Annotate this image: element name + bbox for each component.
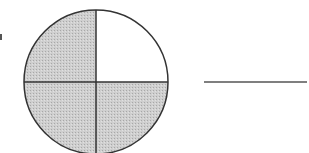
fraction-diagram — [0, 0, 309, 153]
fraction-circle — [24, 10, 168, 153]
cropped-label-mark — [0, 34, 2, 40]
shaded-quadrant-bottom-right — [96, 82, 168, 153]
shaded-quadrant-bottom-left — [24, 82, 96, 153]
shaded-quadrant-top-left — [24, 10, 96, 82]
unshaded-quadrant-top-right — [96, 10, 168, 82]
